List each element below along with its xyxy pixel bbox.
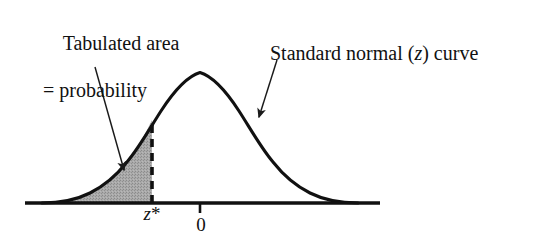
tabulated-area-label-line2: = probability (43, 79, 180, 103)
curve-label-suffix: ) curve (422, 42, 478, 64)
axis-label-zstar: z* (132, 203, 172, 225)
tabulated-area-label: Tabulated area = probability (43, 8, 180, 150)
axis-label-zero-value: 0 (196, 214, 206, 235)
axis-label-zstar-symbol: z (144, 203, 151, 224)
tabulated-area-label-line1: Tabulated area (63, 32, 180, 54)
standard-normal-curve-label: Standard normal (z) curve (250, 18, 478, 89)
curve-label-prefix: Standard normal ( (270, 42, 414, 64)
axis-label-zero: 0 (181, 214, 221, 236)
axis-label-zstar-star: * (151, 203, 161, 224)
normal-curve-figure: Tabulated area = probability Standard no… (0, 0, 538, 249)
